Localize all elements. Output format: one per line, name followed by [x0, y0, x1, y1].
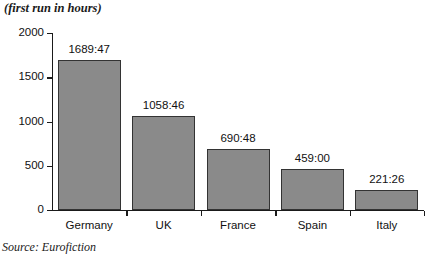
- y-axis-tick-label: 1500: [18, 70, 44, 82]
- bar-value-label: 690:48: [220, 132, 255, 144]
- bar-value-label: 1689:47: [68, 43, 110, 55]
- chart-title: (first run in hours): [4, 1, 102, 16]
- chart-figure: (first run in hours) Hours 0500100015002…: [0, 0, 427, 258]
- y-axis-tick: [47, 122, 52, 123]
- x-axis-tick: [201, 211, 202, 216]
- bar: [58, 60, 121, 210]
- y-axis-line: [52, 33, 53, 211]
- y-axis-tick: [47, 166, 52, 167]
- bar-value-label: 1058:46: [143, 99, 185, 111]
- y-axis-tick-label: 1000: [18, 115, 44, 127]
- x-axis-category-label: France: [220, 219, 256, 231]
- bar: [281, 169, 344, 210]
- x-axis-tick: [275, 211, 276, 216]
- y-axis-tick-label: 0: [38, 203, 44, 215]
- bar: [355, 190, 418, 210]
- x-axis-line: [52, 210, 424, 211]
- bar: [132, 116, 195, 210]
- x-axis-tick: [424, 211, 425, 216]
- y-axis-tick: [47, 210, 52, 211]
- x-axis-category-label: Germany: [66, 219, 113, 231]
- x-axis-category-label: UK: [156, 219, 172, 231]
- y-axis-tick-label: 2000: [18, 26, 44, 38]
- x-axis-category-label: Italy: [376, 219, 397, 231]
- x-axis-tick: [350, 211, 351, 216]
- bar-value-label: 221:26: [369, 173, 404, 185]
- x-axis-category-label: Spain: [298, 219, 327, 231]
- y-axis-tick: [47, 33, 52, 34]
- y-axis-tick: [47, 77, 52, 78]
- source-caption: Source: Eurofiction: [2, 240, 96, 255]
- plot-area: Hours 0500100015002000 1689:471058:46690…: [52, 33, 424, 211]
- bar-value-label: 459:00: [295, 152, 330, 164]
- bar: [207, 149, 270, 210]
- y-axis-tick-label: 500: [25, 159, 44, 171]
- x-axis-tick: [126, 211, 127, 216]
